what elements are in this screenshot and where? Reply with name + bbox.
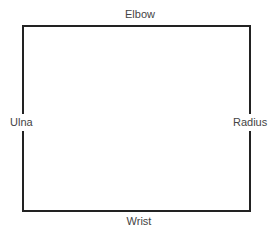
label-elbow: Elbow	[0, 8, 276, 21]
label-radius: Radius	[232, 114, 268, 131]
label-wrist: Wrist	[0, 215, 276, 228]
label-ulna: Ulna	[9, 114, 34, 131]
forearm-rectangle	[22, 25, 251, 212]
